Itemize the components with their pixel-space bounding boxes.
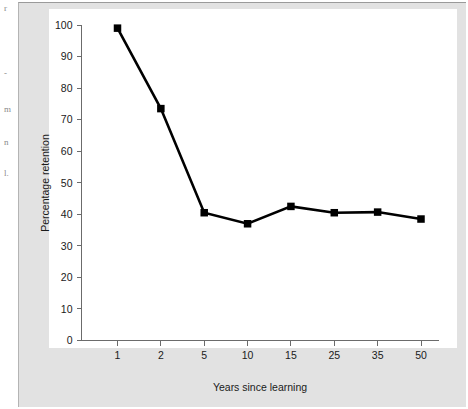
data-point-marker bbox=[374, 208, 382, 216]
margin-text-fragment: r bbox=[4, 3, 7, 13]
data-point-marker bbox=[200, 209, 208, 217]
x-tick-label: 50 bbox=[415, 349, 427, 361]
x-tick-label: 25 bbox=[328, 349, 340, 361]
x-tick-label: 2 bbox=[158, 349, 164, 361]
y-axis-title: Percentage retention bbox=[39, 134, 51, 232]
data-point-marker bbox=[417, 215, 425, 223]
margin-text-fragment: l. bbox=[4, 168, 9, 178]
y-tick-label: 20 bbox=[61, 271, 73, 283]
retention-line-chart: 0102030405060708090100 1251015253550 Yea… bbox=[19, 3, 467, 408]
y-tick-label: 0 bbox=[67, 334, 73, 346]
y-tick-label: 90 bbox=[61, 50, 73, 62]
data-point-marker bbox=[114, 24, 122, 32]
x-tick-label: 35 bbox=[372, 349, 384, 361]
margin-text-fragment: m bbox=[4, 104, 11, 114]
data-point-marker bbox=[244, 220, 252, 228]
x-tick-label: 5 bbox=[201, 349, 207, 361]
x-axis-title: Years since learning bbox=[213, 381, 307, 393]
data-series-markers bbox=[114, 24, 425, 227]
y-tick-label: 50 bbox=[61, 177, 73, 189]
x-tick-label: 15 bbox=[285, 349, 297, 361]
y-tick-label: 30 bbox=[61, 240, 73, 252]
x-tick-label: 1 bbox=[115, 349, 121, 361]
x-tick-label: 10 bbox=[242, 349, 254, 361]
x-axis-ticks: 1251015253550 bbox=[115, 341, 427, 361]
margin-text-fragment: n bbox=[4, 137, 9, 147]
data-point-marker bbox=[287, 203, 295, 211]
data-point-marker bbox=[331, 209, 339, 217]
y-axis-ticks: 0102030405060708090100 bbox=[55, 19, 82, 347]
chart-plot-area: 0102030405060708090100 1251015253550 Yea… bbox=[19, 3, 467, 408]
data-point-marker bbox=[157, 105, 165, 113]
page-margin-text: r - m n l. bbox=[0, 0, 18, 409]
y-tick-label: 70 bbox=[61, 113, 73, 125]
y-tick-label: 10 bbox=[61, 303, 73, 315]
margin-text-fragment: - bbox=[4, 68, 7, 78]
y-tick-label: 80 bbox=[61, 82, 73, 94]
y-tick-label: 60 bbox=[61, 145, 73, 157]
y-tick-label: 40 bbox=[61, 208, 73, 220]
figure-page: r - m n l. 0102030405060708090100 125101… bbox=[0, 0, 468, 409]
data-series-line bbox=[118, 28, 422, 224]
chart-figure: 0102030405060708090100 1251015253550 Yea… bbox=[18, 2, 466, 407]
y-tick-label: 100 bbox=[55, 19, 73, 31]
